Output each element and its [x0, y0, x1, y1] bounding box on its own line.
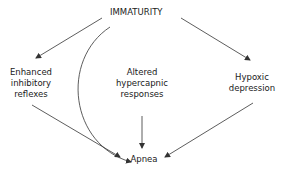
node-apnea-label: Apnea: [130, 154, 157, 164]
node-hypoxic-depression: Hypoxic depression: [224, 72, 280, 94]
node-middle-line2: hypercapnic: [112, 78, 172, 89]
node-immaturity: IMMATURITY: [110, 7, 163, 18]
node-middle-line3: responses: [112, 89, 172, 100]
node-altered-hypercapnic-responses: Altered hypercapnic responses: [112, 67, 172, 100]
node-left-line1: Enhanced: [4, 67, 58, 78]
node-left-line3: reflexes: [4, 89, 58, 100]
node-enhanced-inhibitory-reflexes: Enhanced inhibitory reflexes: [4, 67, 58, 100]
node-immaturity-label: IMMATURITY: [110, 7, 163, 17]
edge-immaturity-to-inhibitory: [36, 18, 102, 58]
diagram-canvas: IMMATURITY Enhanced inhibitory reflexes …: [0, 0, 285, 174]
node-apnea: Apnea: [126, 154, 162, 165]
edge-inhibitory-to-apnea: [32, 105, 120, 157]
edge-hypoxic-to-apnea: [165, 103, 253, 157]
node-right-line1: Hypoxic: [224, 72, 280, 83]
node-middle-line1: Altered: [112, 67, 172, 78]
node-right-line2: depression: [224, 83, 280, 94]
node-left-line2: inhibitory: [4, 78, 58, 89]
edge-immaturity-to-hypoxic: [181, 18, 250, 60]
